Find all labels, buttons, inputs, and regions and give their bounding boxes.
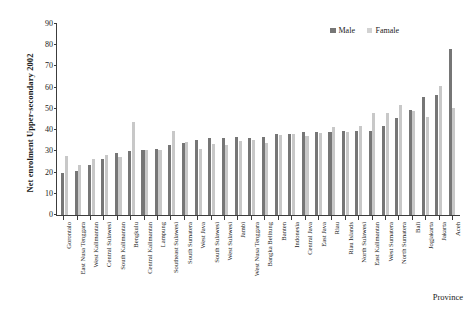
- y-axis-tick-label: 10: [45, 190, 53, 198]
- bar-male: [235, 137, 238, 215]
- x-label-cell: South Sulawesi: [204, 222, 217, 302]
- bar-female: [332, 127, 335, 215]
- y-axis-tick-mark: [54, 44, 57, 45]
- bar-male: [395, 118, 398, 215]
- y-axis-tick-label: 60: [45, 84, 53, 92]
- x-label-cell: Jakarta: [432, 222, 445, 302]
- bar-female: [199, 149, 202, 215]
- bar-series-container: [57, 24, 460, 215]
- x-label-cell: Central Sulawesi: [97, 222, 110, 302]
- x-tick-mark: [130, 216, 131, 220]
- bar-female: [399, 105, 402, 215]
- x-axis-tick-labels: GorontaloEast Nusa TenggaraWest Kalimant…: [56, 222, 460, 302]
- bar-group: [205, 24, 218, 215]
- bar-female: [239, 141, 242, 215]
- bar-female: [452, 108, 455, 215]
- x-tick-mark: [211, 216, 212, 220]
- x-tick-mark: [90, 216, 91, 220]
- bar-male: [262, 137, 265, 215]
- bar-female: [346, 132, 349, 215]
- bar-group: [85, 24, 98, 215]
- x-label-cell: West Sulawesi: [218, 222, 231, 302]
- y-axis-tick-mark: [54, 172, 57, 173]
- x-label-cell: West Java: [191, 222, 204, 302]
- x-label-cell: Riau Islands: [339, 222, 352, 302]
- bar-female: [386, 113, 389, 215]
- bar-female: [212, 144, 215, 215]
- x-label-cell: East Kalimantan: [365, 222, 378, 302]
- x-tick-mark: [77, 216, 78, 220]
- x-tick-mark: [224, 216, 225, 220]
- y-axis-tick-label: 0: [49, 211, 53, 219]
- bar-group: [192, 24, 205, 215]
- bar-group: [258, 24, 271, 215]
- bar-male: [369, 131, 372, 215]
- bar-group: [98, 24, 111, 215]
- bar-male: [409, 110, 412, 215]
- bar-group: [218, 24, 231, 215]
- x-tick-mark: [385, 216, 386, 220]
- bar-male: [182, 143, 185, 215]
- bar-female: [185, 142, 188, 215]
- x-tick-mark: [278, 216, 279, 220]
- bar-male: [75, 171, 78, 215]
- legend-label-male: Male: [339, 26, 355, 35]
- x-label-cell: Central Java: [298, 222, 311, 302]
- legend-label-female: Famale: [375, 26, 399, 35]
- bar-male: [248, 138, 251, 215]
- x-label-cell: Jambi: [231, 222, 244, 302]
- bar-male: [275, 134, 278, 215]
- bar-group: [138, 24, 151, 215]
- bar-male: [355, 131, 358, 215]
- x-axis-title: Province: [0, 292, 463, 302]
- x-tick-mark: [331, 216, 332, 220]
- x-label-cell: Gorontalo: [57, 222, 70, 302]
- bar-group: [325, 24, 338, 215]
- x-tick-mark: [412, 216, 413, 220]
- x-tick-mark: [425, 216, 426, 220]
- x-label-cell: West Kalimantan: [84, 222, 97, 302]
- bar-male: [61, 173, 64, 215]
- bar-female: [279, 135, 282, 215]
- x-label-cell: East Java: [312, 222, 325, 302]
- bar-male: [382, 126, 385, 215]
- bar-group: [432, 24, 445, 215]
- x-tick-mark: [398, 216, 399, 220]
- x-label-cell: Central Kalimantan: [137, 222, 150, 302]
- bar-male: [128, 151, 131, 215]
- bar-female: [172, 131, 175, 215]
- x-label-cell: North Sulawesi: [352, 222, 365, 302]
- bar-group: [178, 24, 191, 215]
- y-axis-tick-mark: [54, 108, 57, 109]
- bar-male: [88, 165, 91, 215]
- x-label-cell: Southeast Sulawesi: [164, 222, 177, 302]
- bar-group: [71, 24, 84, 215]
- bar-female: [265, 143, 268, 215]
- legend-item-female: Famale: [367, 26, 399, 35]
- bar-male: [222, 138, 225, 215]
- bar-female: [105, 155, 108, 215]
- x-tick-mark: [264, 216, 265, 220]
- bar-group: [152, 24, 165, 215]
- bar-male: [101, 159, 104, 215]
- bar-group: [419, 24, 432, 215]
- x-label-cell: North Sumatera: [392, 222, 405, 302]
- y-axis-tick-label: 50: [45, 105, 53, 113]
- x-tick-mark: [305, 216, 306, 220]
- x-tick-mark: [157, 216, 158, 220]
- bar-male: [449, 49, 452, 215]
- bar-group: [298, 24, 311, 215]
- y-axis-tick-label: 30: [45, 147, 53, 155]
- x-label-cell: Banten: [272, 222, 285, 302]
- y-axis-tick-mark: [54, 23, 57, 24]
- legend-swatch-female-icon: [367, 28, 373, 34]
- x-tick-mark: [318, 216, 319, 220]
- y-axis-tick-mark: [54, 150, 57, 151]
- bar-male: [342, 131, 345, 215]
- x-label-cell: Lampung: [151, 222, 164, 302]
- chart-figure: Net enrolment Upper-secondary 2002 01020…: [0, 0, 473, 314]
- bar-group: [285, 24, 298, 215]
- bar-group: [352, 24, 365, 215]
- bar-male: [195, 140, 198, 215]
- bar-group: [339, 24, 352, 215]
